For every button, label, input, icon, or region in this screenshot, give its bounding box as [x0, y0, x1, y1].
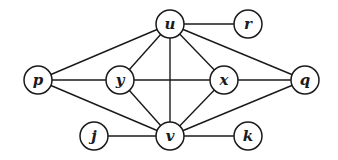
node-label: p: [33, 71, 44, 89]
node-u: u: [156, 10, 184, 38]
node-x: x: [210, 66, 238, 94]
edges: [38, 24, 305, 136]
node-label: r: [244, 15, 253, 33]
node-v: v: [156, 122, 184, 150]
node-label: q: [300, 71, 311, 89]
node-label: y: [115, 71, 126, 89]
node-q: q: [291, 66, 319, 94]
node-label: v: [166, 127, 175, 145]
node-k: k: [234, 122, 262, 150]
node-j: j: [80, 122, 108, 150]
node-label: u: [165, 15, 176, 33]
node-r: r: [234, 10, 262, 38]
edge-u-p: [38, 24, 170, 80]
node-label: k: [243, 127, 253, 145]
node-p: p: [24, 66, 52, 94]
node-y: y: [106, 66, 134, 94]
node-label: x: [219, 71, 230, 89]
graph-diagram: urpyxqjvk: [0, 0, 338, 160]
